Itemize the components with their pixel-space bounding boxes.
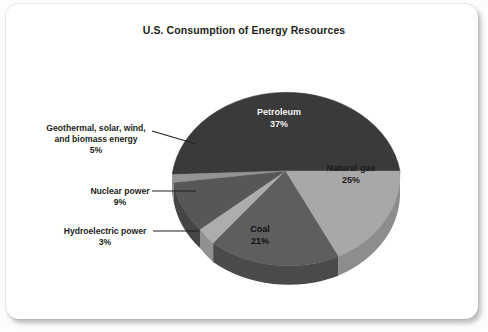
callout-geothermal-line2: and biomass energy [54,134,137,144]
callout-label-nuclear: Nuclear power 9% [56,186,184,208]
chart-title: U.S. Consumption of Energy Resources [0,24,488,36]
callout-label-geothermal: Geothermal, solar, wind, and biomass ene… [8,123,184,157]
callout-label-hydroelectric: Hydroelectric power 3% [26,226,184,248]
screenshot-root: U.S. Consumption of Energy Resources [0,0,488,332]
pie-chart-svg [172,48,404,290]
callout-geothermal-line1: Geothermal, solar, wind, [46,123,145,133]
pie-chart [172,48,404,290]
callout-nuclear-percent: 9% [56,197,184,208]
callout-hydroelectric-percent: 3% [26,237,184,248]
callout-geothermal-percent: 5% [8,145,184,156]
callout-nuclear-name: Nuclear power [90,186,149,196]
slice-petroleum [172,92,400,174]
callout-hydroelectric-name: Hydroelectric power [64,226,147,236]
